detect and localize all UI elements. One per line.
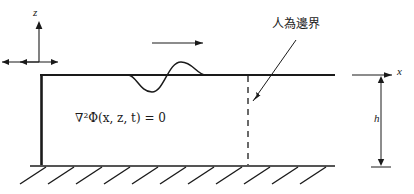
artificial-boundary-label: 人為邊界 bbox=[272, 18, 320, 30]
depth-arrowhead-bottom bbox=[378, 159, 384, 166]
wave-domain-diagram: z x h ∇²Φ(x, z, t) = 0 人為邊界 bbox=[0, 0, 414, 194]
governing-equation-label: ∇²Φ(x, z, t) = 0 bbox=[75, 112, 166, 124]
z-axis-arrowhead bbox=[36, 21, 43, 29]
x-axis-label: x bbox=[397, 66, 402, 77]
diagram-canvas bbox=[0, 0, 414, 194]
wave-profile bbox=[128, 62, 206, 92]
depth-arrowhead-top bbox=[378, 76, 384, 83]
boundary-leader-arrow bbox=[253, 40, 296, 101]
depth-label: h bbox=[374, 113, 380, 124]
z-axis-label: z bbox=[33, 7, 37, 18]
seabed-hatching bbox=[20, 167, 326, 184]
